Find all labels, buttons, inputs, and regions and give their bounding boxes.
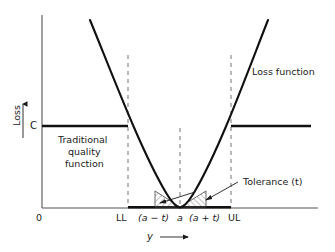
x-tick-label-ul: UL	[228, 212, 240, 223]
x-tick-label-a-plus-t: (a + t)	[189, 212, 220, 223]
tolerance-arrow-right	[206, 182, 238, 200]
origin-label: 0	[36, 212, 42, 223]
taguchi-loss-function-diagram: Loss C 0 LL (a − t) a (a + t) UL y Loss …	[0, 0, 335, 252]
dashed-reference-lines	[128, 55, 231, 208]
c-level-label: C	[30, 120, 37, 131]
x-axis-label: y	[147, 231, 153, 242]
x-tick-label-a-minus-t: (a − t)	[138, 212, 169, 223]
x-tick-label-a: a	[177, 212, 183, 223]
y-axis-label: Loss	[11, 94, 22, 138]
traditional-function-line1: Traditional	[58, 134, 107, 145]
tolerance-annotation: Tolerance (t)	[243, 176, 302, 187]
traditional-function-line3: function	[65, 158, 104, 169]
loss-function-annotation: Loss function	[252, 66, 315, 77]
traditional-function-line2: quality	[68, 146, 101, 157]
x-tick-label-ll: LL	[116, 212, 127, 223]
loss-function-curve	[90, 20, 268, 208]
